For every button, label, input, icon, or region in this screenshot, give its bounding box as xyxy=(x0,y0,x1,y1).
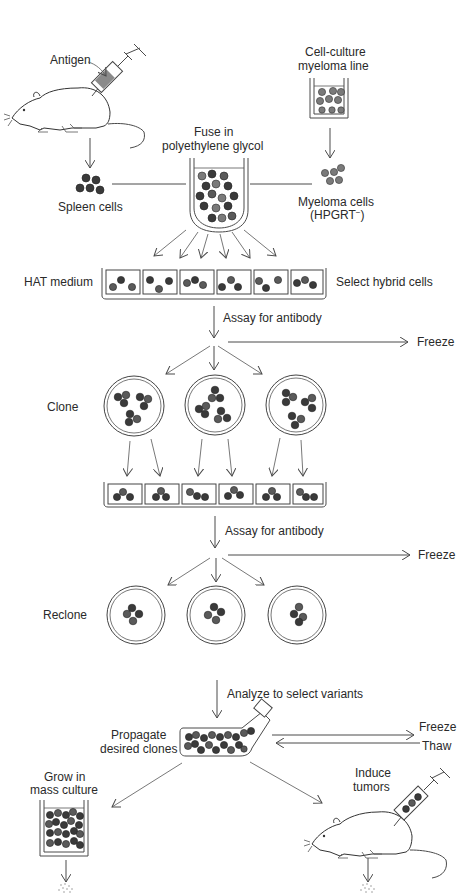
freeze-label-2: Freeze xyxy=(418,548,456,562)
subculture-multiwell-plate-icon xyxy=(104,482,326,507)
immunized-mouse-icon xyxy=(4,88,144,148)
myeloma-culture-dish-icon xyxy=(310,78,348,118)
grow-label-line1: Grow in xyxy=(44,770,85,784)
spleen-cells-icon xyxy=(76,174,104,194)
propagate-label-line2: desired clones xyxy=(100,742,177,756)
reclone-label: Reclone xyxy=(43,608,87,622)
freeze-label-3: Freeze xyxy=(419,720,457,734)
mass-culture-beaker-icon xyxy=(40,800,88,856)
antigen-syringe-icon xyxy=(91,44,146,96)
myeloma-cells-icon xyxy=(321,164,344,184)
antibody-product-dots-icon xyxy=(58,883,73,893)
clone-petri-dish-2-icon xyxy=(185,375,245,435)
assay-for-antibody-label-2: Assay for antibody xyxy=(225,524,324,538)
hat-medium-label: HAT medium xyxy=(24,275,93,289)
distribution-arrows xyxy=(154,230,276,258)
myeloma-cells-label-line2: (HPGRT−) xyxy=(310,208,364,223)
clone-label: Clone xyxy=(47,400,79,414)
freeze-label-1: Freeze xyxy=(417,335,455,349)
tumor-mouse-icon xyxy=(304,812,446,878)
cell-culture-label-line1: Cell-culture xyxy=(305,45,366,59)
fuse-label-line1: Fuse in xyxy=(194,125,233,139)
hat-multiwell-plate-icon xyxy=(102,268,326,299)
clone-petri-dish-1-icon xyxy=(104,376,164,436)
monoclonal-antibody-diagram: Antigen Spleen cells Fuse in polyethylen… xyxy=(0,0,472,893)
myeloma-cells-label-line1: Myeloma cells xyxy=(298,195,374,209)
hybridoma-syringe-icon xyxy=(394,768,450,826)
antigen-label: Antigen xyxy=(50,53,91,67)
reclone-petri-dish-2-icon xyxy=(187,586,245,644)
grow-label-line2: mass culture xyxy=(30,783,98,797)
spleen-cells-label: Spleen cells xyxy=(58,200,123,214)
cell-culture-label-line2: myeloma line xyxy=(298,59,369,73)
analyze-label: Analyze to select variants xyxy=(227,687,363,701)
clone-petri-dish-3-icon xyxy=(266,375,326,435)
reclone-petri-dish-1-icon xyxy=(107,586,165,644)
thaw-label: Thaw xyxy=(422,739,452,753)
induce-label-line1: Induce xyxy=(355,766,391,780)
fusion-test-tube-icon xyxy=(190,158,248,232)
propagate-label-line1: Propagate xyxy=(111,728,167,742)
reclone-petri-dish-3-icon xyxy=(268,586,326,644)
induce-label-line2: tumors xyxy=(353,780,390,794)
assay-for-antibody-label-1: Assay for antibody xyxy=(223,311,322,325)
culture-flask-icon xyxy=(180,699,272,756)
fuse-label-line2: polyethylene glycol xyxy=(162,139,263,153)
ascites-antibody-dots-icon xyxy=(360,883,375,893)
select-hybrid-label: Select hybrid cells xyxy=(336,275,433,289)
